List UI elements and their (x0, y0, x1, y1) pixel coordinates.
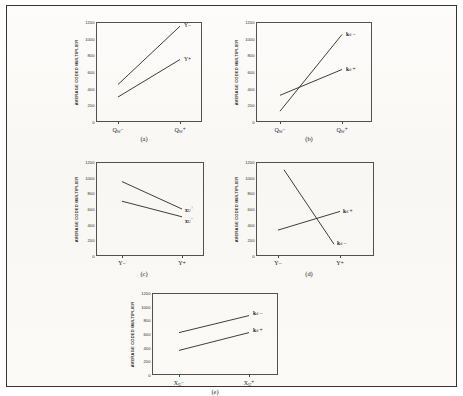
x-tick-y-plus-c: Y+ (178, 260, 186, 266)
series-line-kd-minus-d (284, 170, 334, 244)
x-tickmark-right-e (249, 375, 250, 377)
y-tick-200-a: 200 (88, 103, 95, 108)
data-lines-e (152, 293, 278, 375)
caption-b: (b) (229, 135, 389, 142)
x-tickmark-left-e (179, 375, 180, 377)
x-tickmark-left-d (278, 256, 279, 258)
y-tick-1000-b: 1000 (245, 36, 254, 41)
series-label-xu-plus-c: xU+ (185, 205, 193, 214)
y-tick-1000-a: 1000 (85, 36, 94, 41)
y-tick-200-b: 200 (248, 103, 255, 108)
x-tickmark-right-b (342, 122, 343, 124)
x-tick-xu-minus-e: XU− (174, 379, 184, 387)
y-tick-800-e: 800 (144, 318, 151, 323)
x-tickmark-left-a (118, 122, 119, 124)
y-axis-ticks-e: 1200 1000 800 600 400 200 0 (137, 293, 152, 375)
series-label-y-minus-a: Y− (184, 22, 191, 28)
caption-c: (c) (69, 270, 219, 277)
y-tick-400-c: 400 (88, 222, 95, 227)
caption-d: (d) (229, 270, 389, 277)
y-tick-200-c: 200 (88, 238, 95, 243)
series-label-kd-minus-b: kd − (346, 31, 356, 38)
y-tick-400-e: 400 (144, 345, 151, 350)
scanned-page-frame: AVERAGE CODED MULTIPLIER 1200 1000 800 6… (6, 5, 457, 387)
x-tick-xu-plus-e: XU+ (244, 379, 254, 387)
series-line-kd-minus-b (280, 35, 342, 112)
y-tick-800-b: 800 (248, 53, 255, 58)
y-tick-0-b: 0 (252, 120, 254, 125)
y-tick-600-a: 600 (88, 70, 95, 75)
x-tick-qw-minus-a: QW− (112, 126, 123, 134)
y-tick-600-c: 600 (88, 207, 95, 212)
figure-b: AVERAGE CODED MULTIPLIER 1200 1000 800 6… (229, 18, 389, 143)
y-tick-1200-c: 1200 (85, 160, 94, 165)
y-tick-800-d: 800 (248, 191, 255, 196)
series-line-xu-minus-c (122, 201, 182, 217)
y-tick-1000-c: 1000 (85, 175, 94, 180)
y-tick-0-c: 0 (92, 254, 94, 259)
x-tickmark-left-b (280, 122, 281, 124)
x-tickmark-left-c (122, 256, 123, 258)
y-tick-1200-e: 1200 (141, 291, 150, 296)
y-tick-600-d: 600 (248, 207, 255, 212)
y-tick-0-a: 0 (92, 120, 94, 125)
y-tick-400-b: 400 (248, 86, 255, 91)
y-tick-0-e: 0 (148, 373, 150, 378)
x-tick-qw-plus-a: QW+ (174, 126, 185, 134)
y-tick-400-d: 400 (248, 222, 255, 227)
y-tick-1000-d: 1000 (245, 175, 254, 180)
series-label-kd-plus-e: kd + (253, 327, 263, 334)
series-line-y-minus-a (118, 26, 180, 84)
y-axis-ticks-a: 1200 1000 800 600 400 200 0 (81, 22, 96, 122)
x-tick-y-minus-d: Y− (274, 260, 282, 266)
y-tick-200-e: 200 (144, 359, 151, 364)
y-axis-ticks-d: 1200 1000 800 600 400 200 0 (241, 162, 256, 256)
y-tick-1000-e: 1000 (141, 304, 150, 309)
series-label-xu-minus-c: xU− (185, 216, 193, 225)
series-line-xu-plus-c (122, 182, 182, 209)
x-tick-qw-minus-b: QW− (274, 126, 285, 134)
x-tick-qw-plus-b: QW+ (336, 126, 347, 134)
data-lines-d (256, 162, 374, 256)
data-lines-a (96, 22, 202, 122)
series-line-kd-plus-e (179, 333, 249, 351)
y-tick-1200-a: 1200 (85, 20, 94, 25)
figure-a: AVERAGE CODED MULTIPLIER 1200 1000 800 6… (69, 18, 219, 143)
caption-e: (e) (125, 388, 305, 395)
series-label-kd-minus-e: kd − (253, 310, 263, 317)
y-tick-600-b: 600 (248, 70, 255, 75)
y-tick-1200-b: 1200 (245, 20, 254, 25)
y-tick-0-d: 0 (252, 254, 254, 259)
figure-c: AVERAGE CODED MULTIPLIER 1200 1000 800 6… (69, 158, 219, 280)
x-tick-y-minus-c: Y− (118, 260, 126, 266)
series-label-kd-minus-d: kd − (337, 240, 347, 247)
y-axis-ticks-c: 1200 1000 800 600 400 200 0 (81, 162, 96, 256)
figure-e: AVERAGE CODED MULTIPLIER 1200 1000 800 6… (125, 291, 305, 396)
series-line-kd-plus-d (278, 211, 340, 230)
y-axis-ticks-b: 1200 1000 800 600 400 200 0 (241, 22, 256, 122)
y-tick-1200-d: 1200 (245, 160, 254, 165)
figure-d: AVERAGE CODED MULTIPLIER 1200 1000 800 6… (229, 158, 389, 280)
series-line-kd-minus-e (179, 316, 249, 333)
series-label-kd-plus-d: kd + (343, 208, 353, 215)
caption-a: (a) (69, 135, 219, 142)
y-tick-600-e: 600 (144, 332, 151, 337)
x-tickmark-right-a (180, 122, 181, 124)
x-tick-y-plus-d: Y+ (336, 260, 344, 266)
series-label-kd-plus-b: kd + (346, 66, 356, 73)
y-tick-800-a: 800 (88, 53, 95, 58)
x-tickmark-right-c (182, 256, 183, 258)
series-line-y-plus-a (118, 60, 180, 98)
series-label-y-plus-a: Y+ (184, 56, 191, 62)
y-tick-200-d: 200 (248, 238, 255, 243)
y-tick-400-a: 400 (88, 86, 95, 91)
y-tick-800-c: 800 (88, 191, 95, 196)
x-tickmark-right-d (340, 256, 341, 258)
